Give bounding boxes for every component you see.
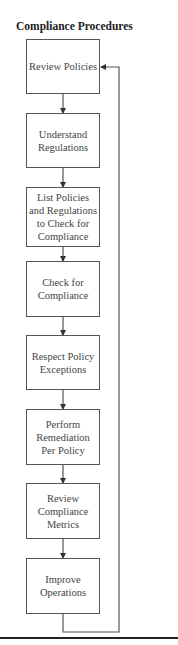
step-review-compliance-metrics: Review Compliance Metrics [26, 483, 100, 539]
step-label: Understand Regulations [29, 128, 97, 154]
step-improve-operations: Improve Operations [26, 558, 100, 614]
step-understand-regulations: Understand Regulations [26, 113, 100, 168]
bottom-rule [0, 637, 178, 639]
step-label: List Policies and Regulations to Check f… [29, 191, 97, 243]
step-respect-policy-exceptions: Respect Policy Exceptions [26, 335, 100, 390]
step-review-policies: Review Policies [26, 39, 100, 94]
step-label: Improve Operations [29, 573, 97, 599]
step-label: Check for Compliance [29, 276, 97, 302]
step-check-compliance: Check for Compliance [26, 261, 100, 317]
step-list-policies-regulations: List Policies and Regulations to Check f… [26, 187, 100, 247]
step-label: Review Compliance Metrics [29, 492, 97, 531]
step-label: Review Policies [29, 60, 97, 73]
step-perform-remediation: Perform Remediation Per Policy [26, 409, 100, 465]
connectors [0, 0, 178, 645]
step-label: Perform Remediation Per Policy [29, 418, 97, 457]
step-label: Respect Policy Exceptions [29, 350, 97, 376]
